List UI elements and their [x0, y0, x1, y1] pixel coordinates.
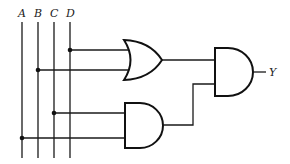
- and-gate-top: [215, 48, 253, 96]
- junction-dot-c: [52, 111, 57, 116]
- input-label-c: C: [50, 7, 59, 20]
- or-gate: [124, 40, 162, 80]
- logic-circuit-diagram: A B C D Y: [0, 0, 290, 164]
- and-gate-bottom: [125, 103, 163, 148]
- input-label-a: A: [17, 7, 26, 20]
- output-label-y: Y: [269, 66, 278, 79]
- junction-dot-a: [20, 136, 25, 141]
- input-label-b: B: [33, 7, 42, 20]
- junction-dot-b: [36, 68, 41, 73]
- junction-dot-d: [68, 48, 73, 53]
- wire-and-to-and: [163, 84, 215, 125]
- input-label-d: D: [65, 7, 75, 20]
